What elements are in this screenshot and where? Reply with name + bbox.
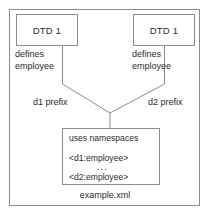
defines-caption-right-line2: employee bbox=[132, 61, 171, 73]
dtd-box-left-label: DTD 1 bbox=[33, 25, 61, 36]
defines-caption-right: defines employee bbox=[132, 49, 171, 72]
uses-namespaces-heading: uses namespaces bbox=[69, 133, 159, 144]
uses-namespaces-box: uses namespaces <d1:employee> ... <d2:em… bbox=[62, 128, 160, 185]
dtd-box-right: DTD 1 bbox=[133, 14, 195, 46]
dtd-box-left: DTD 1 bbox=[16, 14, 78, 46]
dtd-box-right-label: DTD 1 bbox=[150, 25, 178, 36]
namespace-tag-d2: <d2:employee> bbox=[69, 172, 159, 183]
defines-caption-left-line2: employee bbox=[15, 61, 54, 73]
namespace-diagram-figure: DTD 1 DTD 1 defines employee defines emp… bbox=[0, 0, 210, 218]
defines-caption-left-line1: defines bbox=[15, 49, 54, 61]
namespace-tag-d1: <d1:employee> bbox=[69, 153, 159, 164]
prefix-label-d2: d2 prefix bbox=[148, 97, 183, 107]
defines-caption-right-line1: defines bbox=[132, 49, 171, 61]
defines-caption-left: defines employee bbox=[15, 49, 54, 72]
namespace-ellipsis: ... bbox=[97, 164, 159, 171]
example-xml-caption: example.xml bbox=[0, 190, 210, 200]
prefix-label-d1: d1 prefix bbox=[33, 97, 68, 107]
